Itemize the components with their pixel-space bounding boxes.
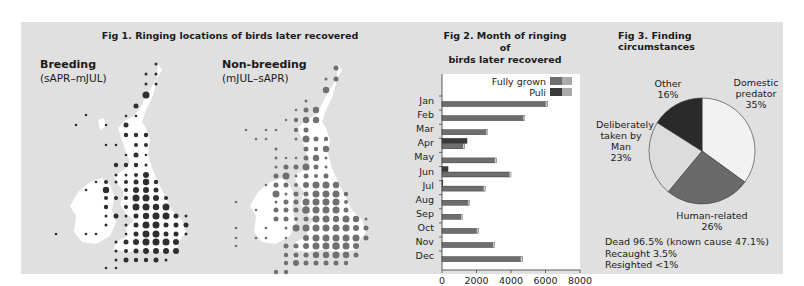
breeding-map [30, 50, 200, 280]
month-label: Mar [416, 123, 434, 134]
bar-fully-grown [442, 257, 522, 262]
month-label: May [414, 151, 434, 162]
pie-label-other: Other16% [648, 78, 688, 100]
bar-fully-grown [442, 158, 496, 163]
fig1-title: Fig 1. Ringing locations of birds later … [80, 30, 380, 41]
bar-fully-grown [442, 214, 463, 219]
x-tick-label: 2000 [464, 275, 488, 286]
fig2-title-line1: Fig 2. Month of ringing of [443, 30, 566, 53]
bar-fully-grown [442, 200, 470, 205]
bar-fully-grown [442, 243, 495, 248]
bar-fully-grown [442, 116, 525, 121]
month-label: Dec [416, 250, 434, 261]
bar-fully-grown [442, 144, 464, 149]
month-label: Jan [418, 95, 434, 106]
footnote-resighted: Resighted <1% [605, 259, 785, 271]
month-label: Apr [418, 137, 435, 148]
month-label: Sep [416, 208, 434, 219]
svg-text:Fully grown: Fully grown [492, 76, 546, 87]
pie-label-domestic-predator: Domesticpredator35% [730, 77, 782, 110]
month-label: Oct [418, 222, 435, 233]
bar-fully-grown [442, 102, 547, 107]
pie-label-human-related: Human-related26% [672, 210, 752, 232]
x-tick-label: 8000 [568, 275, 592, 286]
bar-puli [442, 138, 467, 143]
bar-fully-grown [442, 172, 511, 177]
fig3-footnotes: Dead 96.5% (known cause 47.1%) Recaught … [605, 236, 785, 271]
bar-fully-grown [442, 228, 478, 233]
svg-text:Puli: Puli [529, 87, 546, 98]
month-bar-chart: Fully grownPuliJanFebMarAprMayJunJulAugS… [405, 74, 575, 274]
x-tick-label: 4000 [499, 275, 523, 286]
x-tick-label: 0 [439, 275, 445, 286]
fig3-title: Fig 3. Finding circumstances [618, 30, 748, 52]
bar-fully-grown [442, 186, 485, 191]
bar-fully-grown [442, 130, 488, 135]
pie-label-deliberately-taken: Deliberatelytaken byMan23% [596, 119, 646, 163]
month-label: Jun [418, 166, 434, 177]
footnote-recaught: Recaught 3.5% [605, 248, 785, 260]
month-label: Aug [415, 194, 434, 205]
month-label: Jul [422, 180, 434, 191]
fig2-title: Fig 2. Month of ringing of birds later r… [440, 30, 570, 66]
bar-puli [442, 181, 443, 186]
bar-puli [442, 167, 448, 172]
month-label: Nov [415, 236, 434, 247]
fig2-title-line2: birds later recovered [449, 54, 562, 65]
nonbreeding-map [210, 50, 380, 280]
footnote-dead: Dead 96.5% (known cause 47.1%) [605, 236, 785, 248]
x-tick-label: 6000 [533, 275, 557, 286]
month-label: Feb [417, 109, 434, 120]
